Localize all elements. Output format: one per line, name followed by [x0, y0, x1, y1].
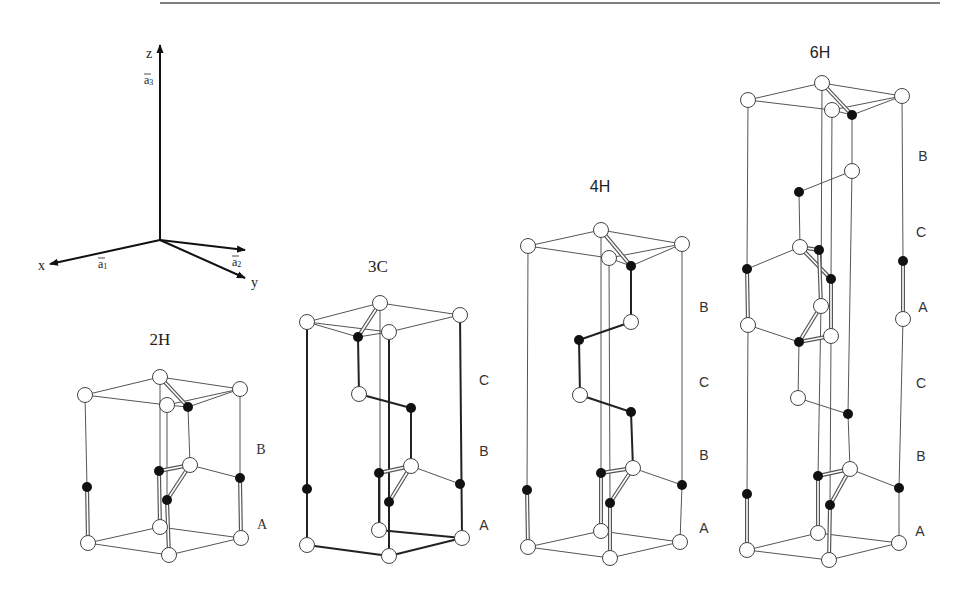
- open-atom-icon: [234, 531, 249, 546]
- stacking-layer-label: A: [257, 517, 268, 532]
- bond-line: [899, 319, 903, 488]
- open-atom-icon: [895, 89, 910, 104]
- open-atom-icon: [814, 299, 829, 314]
- open-atom-icon: [843, 462, 858, 477]
- open-atom-icon: [81, 536, 96, 551]
- open-atom-icon: [603, 551, 618, 566]
- bond-line: [528, 547, 610, 558]
- bond-line: [852, 96, 902, 115]
- filled-atom-icon: [574, 335, 584, 345]
- stacking-layer-label: C: [916, 375, 926, 391]
- polytype-title: 2H: [150, 330, 171, 349]
- filled-atom-icon: [825, 500, 835, 510]
- filled-atom-icon: [742, 264, 752, 274]
- bond-line: [747, 533, 818, 550]
- bond-line: [380, 303, 460, 315]
- open-atom-icon: [815, 76, 830, 91]
- open-atom-icon: [455, 531, 470, 546]
- double-bond-inner: [87, 487, 88, 543]
- bond-line: [830, 336, 831, 505]
- filled-atom-icon: [826, 274, 836, 284]
- bond-line: [389, 315, 460, 332]
- bond-line: [747, 247, 800, 269]
- stacking-layer-label: A: [699, 520, 709, 536]
- a2-vector-label: a2: [232, 255, 241, 269]
- open-atom-icon: [825, 103, 840, 118]
- open-atom-icon: [382, 549, 397, 564]
- bond-line: [527, 246, 528, 490]
- open-atom-icon: [573, 388, 588, 403]
- filled-atom-icon: [626, 407, 636, 417]
- bond-line-bold: [358, 337, 359, 394]
- filled-atom-icon: [898, 256, 908, 266]
- x-axis-label: x: [38, 258, 45, 273]
- bond-line-bold: [460, 315, 462, 538]
- double-bond-inner: [527, 490, 528, 547]
- stacking-layer-label: C: [479, 372, 489, 388]
- stacking-layer-label: C: [699, 374, 709, 390]
- open-atom-icon: [300, 538, 315, 553]
- filled-atom-icon: [605, 498, 615, 508]
- bond-line: [307, 322, 389, 332]
- filled-atom-icon: [406, 403, 416, 413]
- bond-line: [747, 100, 748, 269]
- bond-line: [188, 407, 190, 465]
- open-atom-icon: [521, 540, 536, 555]
- bond-line: [85, 395, 167, 405]
- open-atom-icon: [78, 388, 93, 403]
- bond-line: [748, 83, 822, 100]
- bond-line: [85, 395, 87, 487]
- open-atom-icon: [624, 315, 639, 330]
- a1-vector-label: a1: [98, 257, 107, 271]
- filled-atom-icon: [813, 471, 823, 481]
- double-bond-inner: [747, 269, 748, 325]
- y-axis-label: y: [251, 275, 258, 290]
- bond-line-bold: [579, 322, 631, 340]
- bond-line: [528, 531, 601, 547]
- bond-line: [748, 100, 832, 110]
- z-axis-label: z: [146, 46, 152, 61]
- filled-atom-icon: [814, 245, 824, 255]
- filled-atom-icon: [183, 402, 193, 412]
- bond-line: [85, 377, 160, 395]
- open-atom-icon: [675, 237, 690, 252]
- bond-line: [799, 192, 800, 247]
- open-atom-icon: [741, 318, 756, 333]
- open-atom-icon: [372, 523, 387, 538]
- open-atom-icon: [626, 461, 641, 476]
- open-atom-icon: [453, 308, 468, 323]
- bond-line-bold: [389, 538, 462, 556]
- stacking-layer-label: A: [479, 517, 489, 533]
- bond-line-bold: [579, 340, 580, 395]
- open-atom-icon: [896, 312, 911, 327]
- bond-line: [831, 110, 832, 279]
- polytype-title: 4H: [590, 178, 610, 195]
- bond-line: [680, 485, 682, 542]
- bond-line: [848, 414, 850, 469]
- stacking-layer-label: A: [915, 523, 925, 539]
- bond-line-bold: [379, 530, 462, 538]
- double-bond-inner: [829, 505, 830, 560]
- open-atom-icon: [845, 164, 860, 179]
- open-atom-icon: [791, 391, 806, 406]
- open-atom-icon: [811, 526, 826, 541]
- bond-line: [631, 244, 682, 266]
- polytype-4h: 4HBCBA: [521, 178, 710, 566]
- bond-line: [88, 527, 160, 543]
- open-atom-icon: [822, 553, 837, 568]
- filled-atom-icon: [794, 337, 804, 347]
- x-axis-arrow-icon: [50, 240, 160, 264]
- polytype-title: 6H: [810, 44, 830, 61]
- bond-line-bold: [631, 412, 633, 468]
- open-atom-icon: [404, 459, 419, 474]
- open-atom-icon: [521, 239, 536, 254]
- a3-vector-label: a3: [144, 73, 153, 87]
- bond-line-bold: [580, 395, 631, 412]
- bond-line: [748, 325, 799, 342]
- filled-atom-icon: [626, 261, 636, 271]
- filled-atom-icon: [162, 495, 172, 505]
- bond-line-bold: [307, 545, 389, 556]
- bond-line: [88, 543, 169, 555]
- stacking-layer-label: C: [916, 224, 926, 240]
- bond-line: [829, 543, 899, 560]
